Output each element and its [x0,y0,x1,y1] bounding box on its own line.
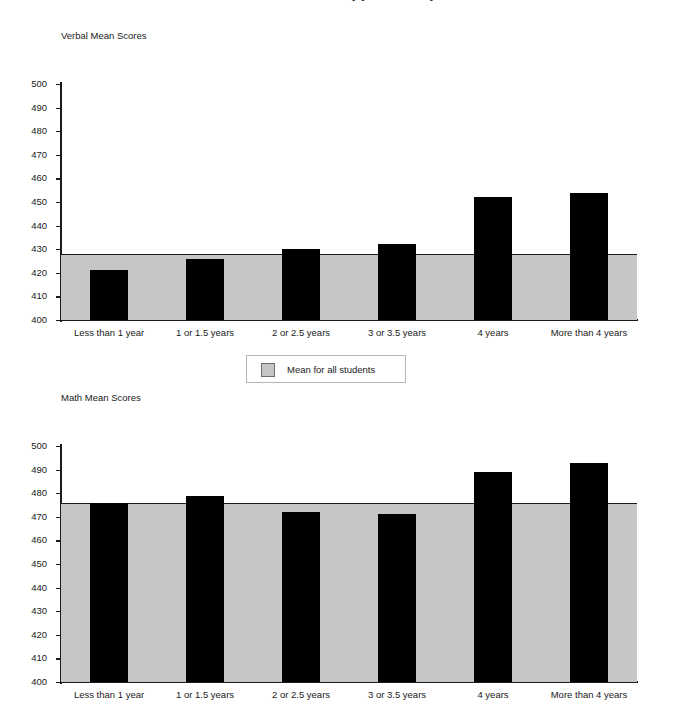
math-category-label: More than 4 years [551,689,628,700]
math-bar [90,503,128,682]
math-chart-title: Math Mean Scores [61,392,141,403]
verbal-y-tick-label: 420 [31,268,47,278]
math-category-label: Less than 1 year [74,689,144,700]
verbal-y-tick-label: 490 [31,103,47,113]
math-category-labels: Less than 1 year1 or 1.5 years2 or 2.5 y… [61,689,637,705]
verbal-category-label: 3 or 3.5 years [368,327,426,338]
math-category-label: 3 or 3.5 years [368,689,426,700]
math-plot: 400410420430440450460470480490500 Less t… [0,409,681,699]
math-y-axis-labels: 400410420430440450460470480490500 [0,409,55,699]
verbal-y-tick-label: 480 [31,126,47,136]
verbal-y-tick-label: 470 [31,150,47,160]
verbal-bar [90,270,128,320]
math-category-label: 1 or 1.5 years [176,689,234,700]
verbal-plot: 400410420430440450460470480490500 Less t… [0,47,681,337]
verbal-y-tick-label: 430 [31,244,47,254]
legend-swatch-icon [261,363,275,377]
legend: Mean for all students [246,355,406,383]
verbal-y-tick-label: 440 [31,221,47,231]
verbal-category-label: 2 or 2.5 years [272,327,330,338]
verbal-bar [282,249,320,320]
math-plot-area [61,446,637,682]
verbal-y-tick-label: 460 [31,174,47,184]
math-y-tick-label: 450 [31,559,47,569]
verbal-bar [570,193,608,320]
math-y-tick-label: 430 [31,606,47,616]
math-y-tick-label: 420 [31,630,47,640]
verbal-plot-area [61,84,637,320]
verbal-category-label: 4 years [477,327,508,338]
math-bar [282,512,320,682]
verbal-bar [474,197,512,320]
verbal-bar [186,259,224,320]
math-y-tick-label: 480 [31,488,47,498]
page-title: Mean SAT I scores by years of study [0,0,681,2]
math-category-label: 4 years [477,689,508,700]
math-bar [186,496,224,682]
math-y-tick-label: 460 [31,536,47,546]
math-bar [570,463,608,682]
math-y-tick-label: 490 [31,465,47,475]
math-bar [378,514,416,682]
math-mean-band [61,503,637,682]
verbal-category-label: 1 or 1.5 years [176,327,234,338]
verbal-category-label: More than 4 years [551,327,628,338]
verbal-y-tick-label: 500 [31,79,47,89]
verbal-y-tick-label: 400 [31,315,47,325]
verbal-chart-title: Verbal Mean Scores [61,30,147,41]
math-y-tick-label: 410 [31,654,47,664]
math-y-tick-label: 470 [31,512,47,522]
math-bar [474,472,512,682]
legend-label: Mean for all students [287,364,375,376]
math-category-label: 2 or 2.5 years [272,689,330,700]
verbal-category-label: Less than 1 year [74,327,144,338]
math-y-tick-label: 500 [31,441,47,451]
math-y-tick-label: 400 [31,677,47,687]
verbal-y-axis-labels: 400410420430440450460470480490500 [0,47,55,337]
verbal-bar [378,244,416,320]
math-y-tick-label: 440 [31,583,47,593]
verbal-category-labels: Less than 1 year1 or 1.5 years2 or 2.5 y… [61,327,637,343]
verbal-y-tick-label: 410 [31,292,47,302]
chart-page: Mean SAT I scores by years of study Verb… [0,0,681,721]
verbal-y-tick-label: 450 [31,197,47,207]
verbal-mean-band [61,254,637,320]
